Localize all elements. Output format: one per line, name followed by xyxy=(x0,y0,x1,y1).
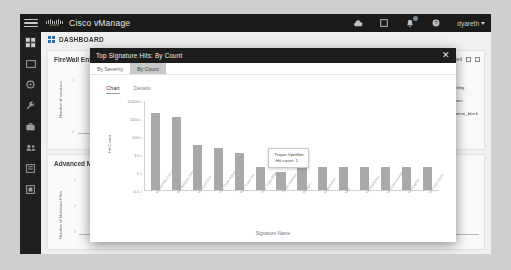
monitor-icon xyxy=(26,60,36,68)
dashboard-icon xyxy=(26,38,35,47)
sidebar-item-administration[interactable] xyxy=(25,142,36,153)
alarms-badge xyxy=(413,16,418,21)
chevron-down-icon xyxy=(481,22,485,25)
panel-b-ymid: 2 xyxy=(74,203,76,208)
user-menu[interactable]: dyareth xyxy=(457,20,485,27)
chart-xaxis-ticks: MALWARE-CNC DWin.Malware.GhoW.Trojan.Gen… xyxy=(144,192,438,228)
report-icon xyxy=(26,164,35,173)
panel-b-ytop: 4 xyxy=(74,177,76,182)
tasks-icon[interactable] xyxy=(379,18,389,28)
tooltip-line-1: .Trojan.Vpnfilter xyxy=(273,152,304,159)
left-sidebar xyxy=(20,32,41,254)
expand-icon[interactable] xyxy=(475,57,480,62)
top-icon-group: ? dyareth xyxy=(353,18,491,28)
chart-bar[interactable] xyxy=(214,148,223,190)
panel-a-ybottom: 0 xyxy=(72,129,74,134)
gear-icon xyxy=(26,80,35,89)
chart-ytick: 100 xyxy=(132,135,139,140)
sidebar-item-configuration[interactable] xyxy=(25,79,36,90)
chart-ytick: 1 xyxy=(137,171,139,176)
chart-ytick: 10000 xyxy=(127,99,139,104)
chart-bar[interactable] xyxy=(172,117,181,190)
modal-header: Top Signature Hits: By Count ✕ xyxy=(90,48,456,63)
chart-bar[interactable] xyxy=(235,153,244,190)
screenshot-root: cisco Cisco vManage ? dyareth xyxy=(0,0,511,270)
panel-a-yaxis-label: Number of sessions xyxy=(58,81,63,118)
tooltip-line-2: - Hit count: 1 xyxy=(273,158,304,165)
chart-ytick: 10 xyxy=(134,153,139,158)
chart-yaxis-title: Hit Count xyxy=(107,135,112,153)
cloud-icon[interactable] xyxy=(353,18,363,28)
briefcase-icon xyxy=(26,123,35,131)
users-icon xyxy=(26,144,36,151)
panel-b-yaxis-label: Number of Malicious Files xyxy=(58,181,63,239)
cisco-logo: cisco xyxy=(46,19,63,28)
chart-bar[interactable] xyxy=(193,145,202,190)
modal-dialog: Top Signature Hits: By Count ✕ By Severi… xyxy=(90,48,456,242)
sidebar-item-monitor[interactable] xyxy=(25,58,36,69)
workflow-icon xyxy=(26,185,35,194)
filter-icon[interactable] xyxy=(466,57,471,62)
sidebar-item-maintenance[interactable] xyxy=(25,121,36,132)
chart-ytick: 1000 xyxy=(130,117,139,122)
panel-b-ybottom: 0 xyxy=(74,229,76,234)
modal-title: Top Signature Hits: By Count xyxy=(96,52,182,59)
application-window: cisco Cisco vManage ? dyareth xyxy=(20,14,491,254)
modal-body: Chart Details Hit Count 1000010001001010… xyxy=(90,75,456,242)
tab-by-severity[interactable]: By Severity xyxy=(90,63,130,74)
user-name: dyareth xyxy=(457,20,479,27)
dashboard-icon xyxy=(48,36,55,43)
help-icon[interactable]: ? xyxy=(431,18,441,28)
sidebar-item-tools[interactable] xyxy=(25,100,36,111)
chart-bar[interactable] xyxy=(151,113,160,190)
signature-hits-bar-chart: Hit Count 1000010001001010.1 MALWARE-CNC… xyxy=(108,101,438,213)
breadcrumb: DASHBOARD xyxy=(48,36,104,43)
chart-ytick: 0.1 xyxy=(133,189,139,194)
alarms-icon[interactable] xyxy=(405,18,415,28)
sidebar-item-workflows[interactable] xyxy=(25,184,36,195)
modal-tab-bar: By Severity By Count xyxy=(90,63,456,75)
tab-details[interactable]: Details xyxy=(134,85,151,94)
close-icon[interactable]: ✕ xyxy=(442,51,450,60)
menu-toggle-icon[interactable] xyxy=(24,19,38,27)
svg-text:?: ? xyxy=(435,21,438,26)
chart-detail-tabs: Chart Details xyxy=(106,85,151,94)
cisco-logo-text: cisco xyxy=(50,24,60,27)
tab-chart[interactable]: Chart xyxy=(106,85,120,94)
page-title: DASHBOARD xyxy=(59,36,104,43)
chart-tooltip: .Trojan.Vpnfilter - Hit count: 1 xyxy=(268,148,309,168)
chart-xaxis-title: Signature Name xyxy=(108,231,438,236)
tab-by-count[interactable]: By Count xyxy=(130,63,165,74)
chart-yaxis-ticks: 1000010001001010.1 xyxy=(116,101,142,191)
sidebar-item-reports[interactable] xyxy=(25,163,36,174)
panel-a-ytop: 1 xyxy=(72,77,74,82)
top-navigation-bar: cisco Cisco vManage ? dyareth xyxy=(20,14,491,32)
wrench-icon xyxy=(26,101,35,110)
app-brand-title: Cisco vManage xyxy=(69,18,130,28)
sidebar-item-dashboard[interactable] xyxy=(25,37,36,48)
